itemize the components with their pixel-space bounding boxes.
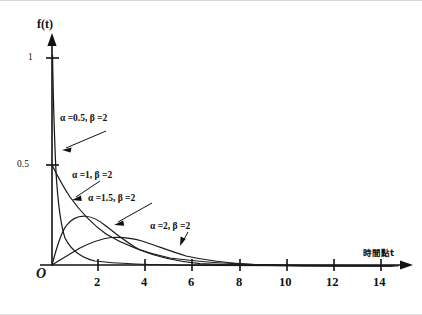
chart-canvas (0, 0, 422, 315)
annotation-alpha-0-5: α =0.5, β =2 (60, 114, 107, 124)
x-tick-label-10: 10 (279, 276, 292, 289)
y-tick-label-0-5: 0.5 (17, 160, 29, 170)
x-tick-label-2: 2 (94, 276, 100, 289)
curve-alpha-1-5 (52, 216, 394, 266)
x-tick-label-12: 12 (326, 276, 339, 289)
x-tick-label-4: 4 (141, 276, 147, 289)
annotation-alpha-1: α =1, β =2 (72, 171, 112, 181)
x-tick-label-14: 14 (373, 276, 386, 289)
annotation-alpha-1-5: α =1.5, β =2 (88, 194, 135, 204)
y-tick-label-1: 1 (28, 53, 33, 63)
x-axis-label: 時間點t (363, 249, 394, 258)
x-tick-label-8: 8 (236, 276, 242, 289)
weibull-pdf-chart: f(t) 時間點t O 1 0.5 2 4 6 8 10 12 14 α =0.… (0, 0, 422, 315)
y-axis-label: f(t) (37, 18, 53, 30)
annotation-alpha-2: α =2, β =2 (150, 222, 190, 232)
x-axis-arrowhead (400, 260, 413, 269)
y-axis-arrowhead (47, 33, 56, 46)
curve-alpha-0-5 (53, 55, 391, 266)
origin-label: O (36, 267, 46, 281)
x-tick-label-6: 6 (188, 276, 194, 289)
